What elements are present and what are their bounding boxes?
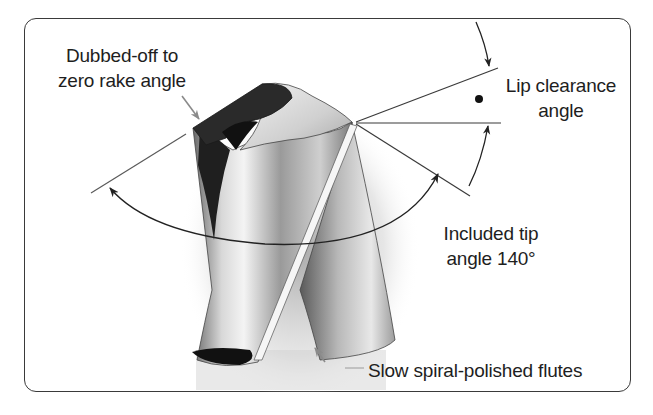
dubbed-off-label: Dubbed-off to zero rake angle <box>40 43 204 93</box>
included-tip-angle-label-line2: angle 140° <box>416 246 566 271</box>
lip-clearance-arrow-bottom <box>469 126 488 186</box>
lip-clearance-upper-line <box>356 68 498 122</box>
lip-clearance-label-line1: Lip clearance <box>492 73 630 98</box>
lip-clearance-label: Lip clearance angle <box>492 73 630 123</box>
included-angle-left-line <box>91 134 186 193</box>
lip-clearance-arrow-top <box>476 22 489 66</box>
flutes-label: Slow spiral-polished flutes <box>368 358 582 383</box>
dubbed-pointer-arrow <box>182 96 199 119</box>
included-tip-angle-label: Included tip angle 140° <box>416 221 566 271</box>
included-tip-angle-label-line1: Included tip <box>416 221 566 246</box>
dubbed-off-label-line2: zero rake angle <box>40 68 204 93</box>
dubbed-off-label-line1: Dubbed-off to <box>40 43 204 68</box>
lip-clearance-label-line2: angle <box>492 98 630 123</box>
bullet-dot-icon <box>475 95 483 103</box>
